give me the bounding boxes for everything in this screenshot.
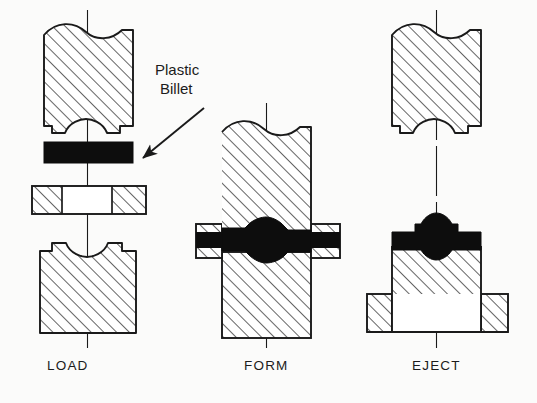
stage-label-form: FORM [244, 358, 289, 373]
callout-label-line1: Plastic [155, 60, 199, 79]
load-die-ring [30, 184, 150, 218]
eject-base-right [478, 291, 512, 335]
stage-label-load: LOAD [47, 358, 89, 373]
callout-label-line2: Billet [160, 79, 193, 98]
form-flash-right [311, 232, 340, 248]
diagram-canvas: Plastic Billet LOAD FORM EJECT [0, 0, 537, 403]
plastic-billet-load [44, 142, 133, 163]
stage-label-eject: EJECT [412, 358, 461, 373]
form-flash-left [196, 232, 222, 248]
process-diagram [0, 0, 537, 403]
